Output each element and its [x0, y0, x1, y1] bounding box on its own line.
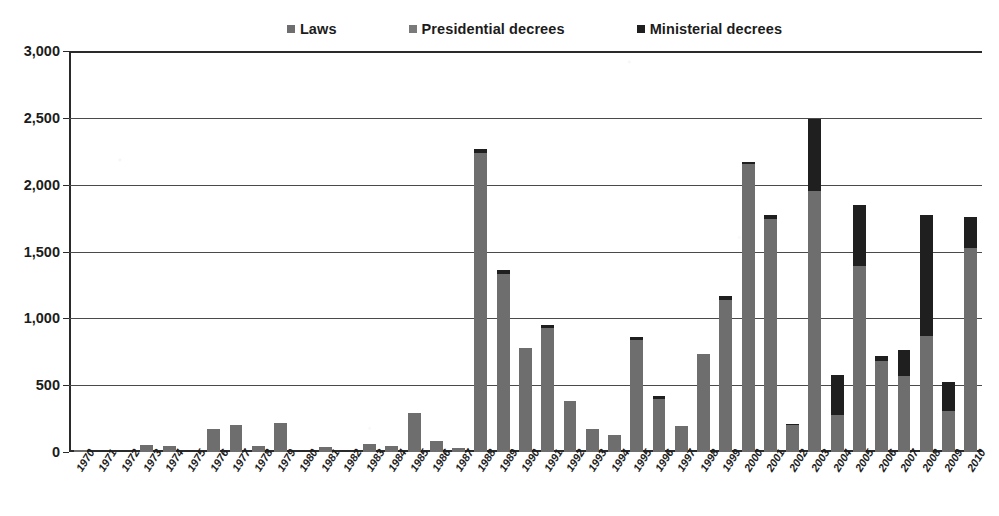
bar-segment-laws[interactable]	[541, 328, 554, 452]
bar-slot[interactable]	[448, 51, 470, 452]
bar-slot[interactable]	[470, 51, 492, 452]
bar-segment-laws[interactable]	[742, 164, 755, 452]
bar-slot[interactable]	[91, 51, 113, 452]
bar-segment-ministerial-decrees[interactable]	[831, 375, 844, 414]
bar-slot[interactable]	[626, 51, 648, 452]
bar-slot[interactable]	[158, 51, 180, 452]
bar-stack[interactable]	[875, 356, 888, 452]
legend-swatch-laws	[287, 25, 295, 33]
bar-slot[interactable]	[492, 51, 514, 452]
bar-segment-laws[interactable]	[875, 361, 888, 452]
bar-stack[interactable]	[519, 348, 532, 452]
x-label-slot: 1994	[603, 455, 625, 513]
bar-slot[interactable]	[292, 51, 314, 452]
bar-stack[interactable]	[831, 375, 844, 452]
bar-slot[interactable]	[848, 51, 870, 452]
bar-stack[interactable]	[964, 217, 977, 452]
bar-slot[interactable]	[893, 51, 915, 452]
bar-slot[interactable]	[247, 51, 269, 452]
bar-slot[interactable]	[225, 51, 247, 452]
bar-segment-laws[interactable]	[630, 340, 643, 452]
bar-slot[interactable]	[559, 51, 581, 452]
bar-segment-ministerial-decrees[interactable]	[853, 205, 866, 266]
bar-segment-laws[interactable]	[920, 336, 933, 452]
bar-segment-laws[interactable]	[519, 348, 532, 452]
bar-stack[interactable]	[274, 423, 287, 452]
bar-stack[interactable]	[630, 337, 643, 452]
bar-slot[interactable]	[136, 51, 158, 452]
bar-stack[interactable]	[764, 215, 777, 452]
bar-stack[interactable]	[474, 149, 487, 452]
bar-slot[interactable]	[670, 51, 692, 452]
x-label-slot: 1972	[114, 455, 136, 513]
bar-slot[interactable]	[782, 51, 804, 452]
bar-slot[interactable]	[403, 51, 425, 452]
bar-segment-laws[interactable]	[964, 248, 977, 453]
bar-slot[interactable]	[269, 51, 291, 452]
bar-stack[interactable]	[719, 296, 732, 452]
bar-segment-ministerial-decrees[interactable]	[898, 350, 911, 376]
bar-segment-ministerial-decrees[interactable]	[964, 217, 977, 248]
bar-segment-laws[interactable]	[497, 274, 510, 452]
bar-slot[interactable]	[737, 51, 759, 452]
bar-segment-laws[interactable]	[653, 399, 666, 452]
bar-slot[interactable]	[358, 51, 380, 452]
bar-slot[interactable]	[581, 51, 603, 452]
bar-stack[interactable]	[808, 119, 821, 452]
bar-slot[interactable]	[648, 51, 670, 452]
bar-segment-laws[interactable]	[764, 219, 777, 452]
bar-stack[interactable]	[742, 162, 755, 452]
bar-stack[interactable]	[564, 401, 577, 452]
bar-stack[interactable]	[653, 396, 666, 452]
bar-stack[interactable]	[697, 354, 710, 452]
bar-segment-laws[interactable]	[564, 401, 577, 452]
bar-stack[interactable]	[497, 270, 510, 452]
bar-slot[interactable]	[937, 51, 959, 452]
bar-stack[interactable]	[942, 382, 955, 452]
bar-slot[interactable]	[537, 51, 559, 452]
bar-slot[interactable]	[871, 51, 893, 452]
bar-slot[interactable]	[960, 51, 982, 452]
y-tick-mark	[63, 452, 69, 453]
bar-segment-laws[interactable]	[474, 153, 487, 452]
x-label-slot: 1983	[358, 455, 380, 513]
bar-segment-laws[interactable]	[808, 191, 821, 452]
x-label-slot: 2001	[759, 455, 781, 513]
legend-label-laws: Laws	[300, 21, 337, 37]
bar-slot[interactable]	[514, 51, 536, 452]
bar-slot[interactable]	[425, 51, 447, 452]
bar-segment-ministerial-decrees[interactable]	[942, 382, 955, 411]
bar-segment-laws[interactable]	[719, 300, 732, 452]
bar-slot[interactable]	[915, 51, 937, 452]
bar-segment-laws[interactable]	[831, 415, 844, 452]
x-label-slot: 1997	[670, 455, 692, 513]
bar-stack[interactable]	[898, 350, 911, 452]
bar-stack[interactable]	[920, 215, 933, 452]
bar-segment-laws[interactable]	[942, 411, 955, 452]
bar-slot[interactable]	[715, 51, 737, 452]
bar-slot[interactable]	[336, 51, 358, 452]
bar-slot[interactable]	[203, 51, 225, 452]
bar-slot[interactable]	[692, 51, 714, 452]
bar-slot[interactable]	[381, 51, 403, 452]
bar-slot[interactable]	[314, 51, 336, 452]
bar-segment-laws[interactable]	[274, 423, 287, 452]
bar-slot[interactable]	[603, 51, 625, 452]
bar-slot[interactable]	[826, 51, 848, 452]
bar-stack[interactable]	[541, 325, 554, 452]
bar-segment-laws[interactable]	[408, 413, 421, 452]
x-label-slot: 1993	[581, 455, 603, 513]
bar-slot[interactable]	[759, 51, 781, 452]
bar-stack[interactable]	[408, 413, 421, 452]
x-label-slot: 1995	[626, 455, 648, 513]
bar-segment-laws[interactable]	[853, 266, 866, 452]
bar-stack[interactable]	[853, 205, 866, 452]
bar-slot[interactable]	[180, 51, 202, 452]
bar-segment-ministerial-decrees[interactable]	[920, 215, 933, 336]
bar-segment-laws[interactable]	[898, 376, 911, 452]
bar-slot[interactable]	[804, 51, 826, 452]
bar-slot[interactable]	[114, 51, 136, 452]
bar-segment-ministerial-decrees[interactable]	[808, 119, 821, 191]
bar-slot[interactable]	[69, 51, 91, 452]
bar-segment-laws[interactable]	[697, 354, 710, 452]
